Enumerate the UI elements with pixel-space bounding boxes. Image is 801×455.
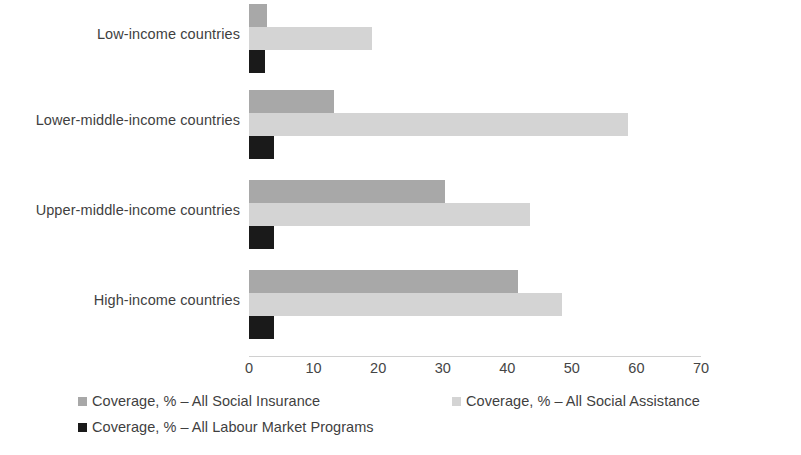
bar-labour-market <box>249 226 274 249</box>
category-group: Lower-middle-income countries <box>0 86 801 172</box>
bar-labour-market <box>249 136 274 159</box>
legend-label: Coverage, % – All Labour Market Programs <box>92 418 374 436</box>
x-tick-label: 60 <box>616 358 656 378</box>
category-label: Upper-middle-income countries <box>0 202 240 219</box>
bar-labour-market <box>249 316 274 339</box>
legend-item-labour-market: Coverage, % – All Labour Market Programs <box>78 418 374 436</box>
bar-social-assistance <box>249 27 372 50</box>
x-tick-label: 0 <box>229 358 269 378</box>
legend-swatch-icon <box>78 397 87 406</box>
category-group: Upper-middle-income countries <box>0 176 801 262</box>
x-tick-label: 20 <box>358 358 398 378</box>
category-label: Lower-middle-income countries <box>0 112 240 129</box>
bar-chart: Low-income countries Lower-middle-income… <box>0 0 801 455</box>
bar-social-insurance <box>249 90 334 113</box>
x-axis-ticks: 010203040506070 <box>0 358 801 384</box>
chart-legend: Coverage, % – All Social Insurance Cover… <box>0 392 801 452</box>
x-tick-label: 70 <box>681 358 721 378</box>
legend-item-social-insurance: Coverage, % – All Social Insurance <box>78 392 320 410</box>
bar-social-insurance <box>249 4 267 27</box>
category-label: Low-income countries <box>0 26 240 43</box>
category-label: High-income countries <box>0 292 240 309</box>
category-group: Low-income countries <box>0 0 801 86</box>
bar-social-insurance <box>249 270 518 293</box>
legend-item-social-assistance: Coverage, % – All Social Assistance <box>452 392 700 410</box>
category-group: High-income countries <box>0 266 801 352</box>
legend-label: Coverage, % – All Social Assistance <box>466 392 700 410</box>
bar-labour-market <box>249 50 265 73</box>
plot-area: Low-income countries Lower-middle-income… <box>0 0 801 360</box>
bar-social-assistance <box>249 293 562 316</box>
bar-social-assistance <box>249 113 628 136</box>
legend-swatch-icon <box>78 423 87 432</box>
legend-swatch-icon <box>452 397 461 406</box>
x-tick-label: 30 <box>423 358 463 378</box>
bar-social-insurance <box>249 180 445 203</box>
x-tick-label: 50 <box>552 358 592 378</box>
x-axis-line <box>249 356 701 357</box>
legend-label: Coverage, % – All Social Insurance <box>92 392 320 410</box>
x-tick-label: 40 <box>487 358 527 378</box>
bar-social-assistance <box>249 203 530 226</box>
x-tick-label: 10 <box>294 358 334 378</box>
